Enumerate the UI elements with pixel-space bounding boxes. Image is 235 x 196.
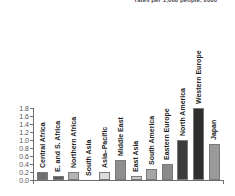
bar-group: Eastern Europe [162,23,173,180]
bar[interactable] [115,160,126,180]
bar-category-label: South Asia [85,140,92,176]
y-axis-tick-mark [30,124,33,125]
chart-title: rates per 1,000 people, 2000 [118,0,234,4]
y-axis-tick-label: 0.4 [19,161,29,168]
bar-category-label: Japan [210,120,217,140]
bar-group: Western Europe [193,23,204,180]
bar[interactable] [37,172,48,180]
bar[interactable] [177,140,188,180]
y-axis-tick-mark [30,116,33,117]
bar[interactable] [99,172,110,180]
y-axis-tick-label: 0.8 [19,145,29,152]
y-axis-tick-mark [30,164,33,165]
bar-category-label: South America [148,116,155,165]
bar[interactable] [209,144,220,180]
bar-group: Central Africa [37,23,48,180]
y-axis-tick-label: 1.0 [19,137,29,144]
y-axis-tick-mark [30,148,33,149]
bar-category-label: Asia–Pacific [101,127,108,168]
bar[interactable] [68,172,79,180]
y-axis-tick-mark [30,180,33,181]
bar-category-label: East Asia [132,141,139,172]
x-axis-line [33,180,224,181]
y-axis-tick-label: 1.6 [19,113,29,120]
y-axis-tick-mark [30,172,33,173]
bar[interactable] [131,176,142,180]
bar-group: Asia–Pacific [99,23,110,180]
bar-group: E. and S. Africa [53,23,64,180]
y-axis-line [33,108,34,181]
y-axis-tick-mark [30,108,33,109]
bar-group: Japan [209,23,220,180]
y-axis-tick-label: 1.2 [19,129,29,136]
bar[interactable] [162,164,173,180]
bar-group: South America [146,23,157,180]
y-axis-tick-label: 0.2 [19,169,29,176]
axis-corner-left [33,180,34,184]
y-axis-tick-label: 1.4 [19,121,29,128]
y-axis-tick-label: 0.0 [19,177,29,184]
bar-category-label: Northern Africa [70,117,77,168]
bar-group: East Asia [131,23,142,180]
bar[interactable] [146,169,157,180]
bar-category-label: Eastern Europe [163,109,170,161]
bar-category-label: E. and S. Africa [54,121,61,172]
y-axis-tick-label: 0.6 [19,153,29,160]
chart-figure: rates per 1,000 people, 2000 0.00.20.40.… [0,0,235,196]
bar-category-label: Central Africa [39,122,46,168]
bar-group: Middle East [115,23,126,180]
plot-area: 0.00.20.40.60.81.01.21.41.61.8 Central A… [33,24,224,181]
bar-category-label: North America [179,88,186,136]
bar-category-label: Middle East [117,118,124,157]
axis-corner-right [223,180,224,184]
y-axis-tick-mark [30,140,33,141]
bar-group: Northern Africa [68,23,79,180]
bar[interactable] [193,108,204,180]
y-axis-tick-label: 1.8 [19,105,29,112]
bar-group: South Asia [84,23,95,180]
y-axis-tick-mark [30,156,33,157]
y-axis-tick-mark [30,132,33,133]
bar-group: North America [177,23,188,180]
bar[interactable] [53,176,64,180]
bar-category-label: Western Europe [195,51,202,105]
